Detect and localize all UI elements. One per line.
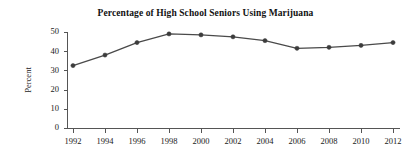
- y-tick-group: 01020304050: [51, 26, 68, 132]
- series-data-point: [135, 40, 139, 44]
- series-data-point: [295, 46, 299, 50]
- x-tick-label: 2012: [385, 136, 402, 146]
- x-tick-label: 2004: [257, 136, 275, 146]
- x-tick-label: 1994: [97, 136, 115, 146]
- y-tick-label: 0: [55, 122, 59, 132]
- series-data-point: [263, 39, 267, 43]
- series-data-point: [103, 53, 107, 57]
- y-tick-label: 10: [51, 103, 60, 113]
- series-data-point: [71, 64, 75, 68]
- y-tick-label: 30: [51, 65, 60, 75]
- y-tick-label: 40: [51, 46, 60, 56]
- series-data-point: [327, 45, 331, 49]
- x-axis-group: 1992199419961998200020022004200620082010…: [65, 129, 402, 147]
- x-tick-label: 2006: [289, 136, 306, 146]
- series-data-point: [231, 35, 235, 39]
- x-tick-label: 1992: [65, 136, 82, 146]
- series-data-point: [199, 33, 203, 37]
- chart-container: Percentage of High School Seniors Using …: [0, 0, 411, 158]
- x-tick-group: 1992199419961998200020022004200620082010…: [65, 129, 402, 147]
- x-tick-label: 2000: [193, 136, 210, 146]
- x-tick-label: 2002: [225, 136, 242, 146]
- x-tick-label: 1996: [129, 136, 146, 146]
- y-tick-label: 20: [51, 84, 60, 94]
- series-data-point: [167, 32, 171, 36]
- y-axis-title: Percent: [23, 67, 33, 93]
- x-tick-label: 1998: [161, 136, 178, 146]
- series-data-point: [391, 40, 395, 44]
- y-tick-label: 50: [51, 26, 60, 36]
- x-tick-label: 2010: [353, 136, 370, 146]
- x-tick-label: 2008: [321, 136, 338, 146]
- series-data-point: [359, 43, 363, 47]
- y-axis-group: 01020304050 Percent: [23, 26, 68, 132]
- line-chart-plot: 01020304050 Percent 19921994199619982000…: [0, 0, 411, 158]
